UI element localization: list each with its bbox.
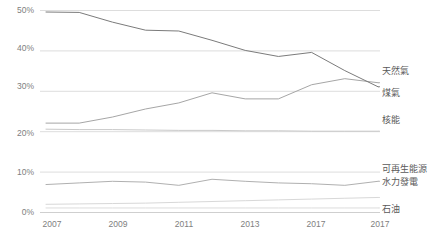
plot-area xyxy=(0,0,444,248)
series-line-2 xyxy=(46,129,378,131)
legend-item-nuclear: 核能 xyxy=(382,115,400,126)
series-line-3 xyxy=(46,197,378,204)
series-line-0 xyxy=(46,12,378,87)
x-tick-2: 2009 xyxy=(109,219,128,229)
x-tick-1: 2007 xyxy=(43,219,62,229)
series-line-4 xyxy=(46,179,378,185)
x-tick-6: 2017 xyxy=(371,219,390,229)
line-chart: 50% 40% 30% 20% 10% 0% 2007 2009 2011 20… xyxy=(0,0,444,248)
x-tick-3: 2011 xyxy=(175,219,193,229)
legend-item-hydro: 水力發電 xyxy=(382,177,418,188)
x-tick-5: 2017 xyxy=(307,219,326,229)
series-line-1 xyxy=(46,79,378,123)
legend-item-natural-gas: 天然氣 xyxy=(382,66,409,77)
legend-item-coal-gas: 煤氣 xyxy=(382,88,400,99)
series-lines xyxy=(46,12,380,208)
x-tick-4: 2013 xyxy=(241,219,260,229)
legend-item-renewable: 可再生能源 xyxy=(382,164,427,175)
legend-item-oil: 石油 xyxy=(382,204,400,215)
